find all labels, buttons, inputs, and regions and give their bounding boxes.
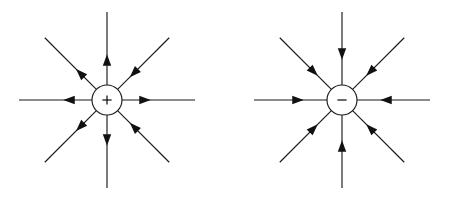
field-line-right-arrowhead [139,96,151,104]
field-line-down-left [45,111,97,163]
field-diagram-canvas: +− [0,0,451,197]
field-line-left-arrowhead [63,96,75,104]
field-line-up-arrowhead [338,48,346,60]
field-line-down-arrowhead [103,134,111,146]
field-line-left-arrowhead [292,96,304,104]
field-line-up-right [118,38,170,90]
field-line-up-arrowhead [103,54,111,66]
field-line-down-right [118,111,170,163]
field-line-down-left [280,111,332,163]
field-line-down-arrowhead [338,140,346,152]
electric-field-figure: +− [0,0,451,197]
field-line-up-left [45,38,97,90]
field-line-up-right [353,38,405,90]
negative-charge: − [254,12,430,188]
field-line-down-right [353,111,405,163]
field-line-right-arrowhead [380,96,392,104]
field-line-up-left [280,38,332,90]
positive-charge: + [19,12,195,188]
